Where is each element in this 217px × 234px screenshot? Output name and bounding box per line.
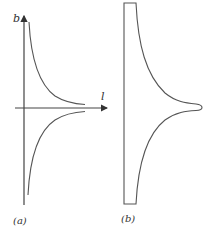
panel-a-caption: (a) [13,215,27,226]
upper-branch-curve [29,22,85,105]
y-axis-label: b [13,12,20,25]
lower-branch-curve [28,112,85,196]
outline-shape [124,3,202,204]
panel-a: b l (a) [13,12,107,226]
panel-b-caption: (b) [121,213,135,224]
panel-b: (b) [121,3,202,224]
figure-canvas: b l (a) (b) [0,0,217,234]
x-axis-label: l [101,90,105,103]
